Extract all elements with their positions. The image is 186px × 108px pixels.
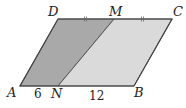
label-a: A xyxy=(6,85,16,100)
label-m: M xyxy=(108,4,123,19)
label-d: D xyxy=(47,4,59,19)
label-b: B xyxy=(133,85,144,100)
label-n: N xyxy=(50,86,63,101)
parallelogram-diagram: D M C A N B 6 12 xyxy=(0,0,186,108)
label-c: C xyxy=(173,4,183,19)
length-nb: 12 xyxy=(89,89,104,103)
length-an: 6 xyxy=(34,87,42,101)
